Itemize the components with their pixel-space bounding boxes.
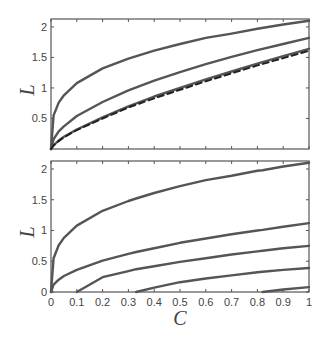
figure: 0.511.52 L 00.511.52 00.10.20.30.40.50.6… bbox=[0, 0, 326, 341]
top-panel: 0.511.52 L bbox=[16, 19, 309, 149]
x-axis-label: C bbox=[173, 307, 187, 329]
bottom-series bbox=[51, 163, 309, 292]
series-curve-3 bbox=[51, 49, 309, 149]
x-tick-label: 0.9 bbox=[276, 296, 291, 308]
series-curve-2 bbox=[51, 38, 309, 149]
x-tick-label: 0.4 bbox=[147, 296, 162, 308]
series-curve-5 bbox=[263, 287, 309, 292]
x-tick-label: 0.2 bbox=[95, 296, 110, 308]
series-curve-3 bbox=[77, 246, 309, 292]
bottom-ticks bbox=[51, 161, 309, 292]
y-tick-label: 1 bbox=[41, 224, 47, 236]
x-tick-label: 0 bbox=[48, 296, 54, 308]
series-curve-1 bbox=[51, 21, 309, 149]
top-ticks bbox=[51, 19, 309, 149]
x-tick-label: 0.6 bbox=[198, 296, 213, 308]
bottom-plot-frame bbox=[51, 161, 309, 292]
top-ytick-labels: 0.511.52 bbox=[32, 21, 47, 125]
series-curve-4 bbox=[51, 51, 309, 149]
top-y-axis-label: L bbox=[16, 84, 38, 96]
x-tick-label: 1 bbox=[306, 296, 312, 308]
top-plot-frame bbox=[51, 19, 309, 149]
y-tick-label: 2 bbox=[41, 21, 47, 33]
x-tick-label: 0.3 bbox=[121, 296, 136, 308]
y-tick-label: 1.5 bbox=[32, 51, 47, 63]
bottom-y-axis-label: L bbox=[16, 226, 38, 238]
y-tick-label: 0.5 bbox=[32, 112, 47, 124]
series-curve-1 bbox=[51, 163, 309, 292]
top-series bbox=[51, 21, 309, 149]
y-tick-label: 2 bbox=[41, 163, 47, 175]
y-tick-label: 0 bbox=[41, 286, 47, 298]
bottom-panel: 00.511.52 00.10.20.30.40.50.60.70.80.91 … bbox=[16, 161, 312, 329]
y-tick-label: 1 bbox=[41, 82, 47, 94]
x-tick-label: 0.1 bbox=[69, 296, 84, 308]
y-tick-label: 0.5 bbox=[32, 255, 47, 267]
x-tick-label: 0.7 bbox=[224, 296, 239, 308]
y-tick-label: 1.5 bbox=[32, 194, 47, 206]
x-tick-label: 0.8 bbox=[250, 296, 265, 308]
